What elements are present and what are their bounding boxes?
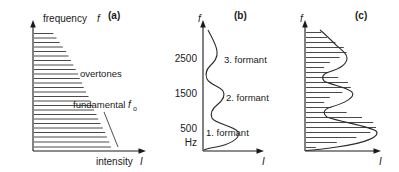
panel-b-formant2-label: 2. formant (226, 92, 269, 103)
panel-b: 2500 1500 500 Hz f (b) I 3. formant 2. f… (150, 0, 275, 172)
panel-a-fundamental-subscript: o (133, 105, 137, 112)
panel-b-x-arrowhead (257, 148, 265, 154)
panel-a-letter: (a) (108, 10, 120, 21)
panel-a-fundamental-var: f (128, 99, 132, 110)
panel-a-y-axis-label: frequency (43, 13, 87, 24)
panel-b-tick-2500: 2500 (175, 53, 198, 64)
panel-a: frequency f (a) overtones fundamental f … (0, 0, 150, 172)
panel-c-svg: f (c) I (275, 0, 399, 172)
panel-c-y-arrowhead (302, 20, 308, 28)
panel-c: f (c) I (275, 0, 399, 172)
panel-a-fundamental-label: fundamental (73, 99, 125, 110)
panel-a-y-arrowhead (30, 20, 36, 28)
panel-c-y-axis-var: f (300, 13, 304, 24)
panel-a-x-arrowhead (139, 148, 147, 154)
panel-b-letter: (b) (234, 10, 247, 21)
panel-b-y-axis-var: f (198, 13, 202, 24)
panel-a-svg: frequency f (a) overtones fundamental f … (0, 0, 150, 172)
panel-a-overtones-label: overtones (80, 68, 122, 79)
panel-b-tick-1500: 1500 (175, 88, 198, 99)
panel-b-formant1-label: 1. formant (206, 127, 249, 138)
panel-a-x-axis-var: I (140, 156, 143, 167)
panel-a-harmonic-lines (34, 34, 111, 148)
panel-c-x-axis-var: I (379, 156, 382, 167)
panel-a-y-axis-var: f (97, 13, 101, 24)
speech-spectrum-figure: frequency f (a) overtones fundamental f … (0, 0, 399, 172)
panel-b-tick-500: 500 (180, 123, 197, 134)
panel-b-unit-label: Hz (185, 137, 197, 148)
panel-c-x-arrowhead (374, 148, 382, 154)
panel-b-svg: 2500 1500 500 Hz f (b) I 3. formant 2. f… (150, 0, 275, 172)
panel-b-x-axis-var: I (262, 156, 265, 167)
panel-b-formant3-label: 3. formant (224, 54, 267, 65)
panel-c-letter: (c) (355, 10, 367, 21)
panel-a-x-axis-label: intensity (96, 156, 133, 167)
panel-b-y-arrowhead (200, 20, 206, 28)
